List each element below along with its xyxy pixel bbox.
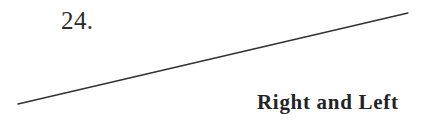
plate-number: 24. (61, 8, 93, 34)
scanned-page-fragment: 24. Right and Left (0, 0, 432, 124)
caption-right-and-left: Right and Left (257, 90, 399, 114)
